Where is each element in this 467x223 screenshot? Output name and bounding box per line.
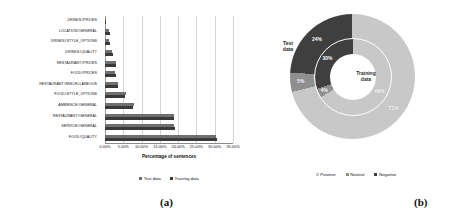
bar-training	[105, 85, 118, 88]
category-label: DRINKS#PRICES	[67, 19, 97, 23]
bar-training	[105, 64, 116, 67]
x-tick-label: 35.00%	[226, 145, 239, 149]
category-label: FOOD#STYLE_OPTIONS	[54, 93, 97, 97]
legend-label-test: Test data	[144, 176, 161, 181]
gridline	[233, 16, 234, 143]
bar-chart-bars	[105, 16, 233, 143]
donut-slice-value-neutral-outer: 5%	[297, 78, 304, 84]
bar-training	[105, 117, 174, 120]
bar-chart-x-axis-title: Percentage of sentences	[105, 154, 233, 159]
bar-chart-category-labels: DRINKS#PRICESLOCATION#GENERALDRINKS#STYL…	[0, 16, 101, 143]
donut-slice-value-neutral-inner: 4%	[321, 87, 328, 93]
donut-inner-ring-label: Training data	[356, 70, 375, 83]
bar-chart-plot-area	[105, 16, 233, 143]
legend-item-test-data: Test data	[139, 176, 161, 181]
donut-outer-ring-label: Test data	[283, 40, 293, 53]
bar-group	[105, 27, 233, 38]
bar-chart-x-axis-ticks: 0.00%5.00%10.00%15.00%20.00%25.00%30.00%…	[105, 145, 233, 153]
category-label: DRINKS#QUALITY	[65, 51, 97, 55]
legend-label-positive: Positive	[320, 172, 335, 177]
donut-slice-value-positive-outer: 71%	[389, 105, 399, 111]
caption-b: (b)	[414, 196, 427, 208]
bar-group	[105, 132, 233, 143]
category-label: RESTAURANT#GENERAL	[53, 115, 97, 119]
x-tick-label: 0.00%	[99, 145, 110, 149]
category-label: FOOD#QUALITY	[69, 136, 97, 140]
legend-item-training-data: Training data	[170, 176, 199, 181]
category-label: SERVICE#GENERAL	[61, 125, 97, 129]
legend-label-training: Training data	[174, 176, 198, 181]
legend-swatch-icon-neutral	[346, 173, 349, 176]
x-tick-label: 15.00%	[153, 145, 166, 149]
bar-training	[105, 53, 113, 56]
legend-label-neutral: Neutral	[350, 172, 364, 177]
legend-item-negative: Negative	[374, 172, 396, 177]
x-tick-label: 30.00%	[208, 145, 221, 149]
bar-group	[105, 16, 233, 27]
x-tick-label: 10.00%	[135, 145, 148, 149]
bar-group	[105, 80, 233, 91]
bar-group	[105, 37, 233, 48]
donut-slice-value-negative-outer: 24%	[312, 36, 322, 42]
bar-group	[105, 111, 233, 122]
bar-training	[105, 106, 133, 109]
donut-chart-plot-area: 71%5%24%66%4%30% Test data Training data	[290, 14, 415, 139]
category-label: RESTAURANT#MISCELLANEOUS	[39, 83, 97, 87]
bar-chart-legend: Test data Training data	[105, 176, 233, 181]
bar-training	[105, 32, 110, 35]
bar-training	[105, 127, 175, 130]
legend-swatch-icon-test	[139, 177, 142, 180]
panel-a-bar-chart: DRINKS#PRICESLOCATION#GENERALDRINKS#STYL…	[0, 0, 245, 223]
panel-b-donut-chart: 71%5%24%66%4%30% Test data Training data…	[245, 0, 467, 223]
bar-training	[105, 74, 116, 77]
donut-slice-value-negative-inner: 30%	[322, 55, 332, 61]
bar-training	[105, 95, 125, 98]
x-tick-label: 5.00%	[118, 145, 129, 149]
category-label: FOOD#PRICES	[71, 72, 97, 76]
legend-swatch-icon-positive	[316, 173, 319, 176]
bar-training	[105, 138, 217, 141]
bar-group	[105, 69, 233, 80]
donut-chart-legend: Positive Neutral Negative	[245, 172, 467, 177]
x-tick-label: 25.00%	[190, 145, 203, 149]
caption-a: (a)	[160, 196, 173, 208]
donut-slice-value-positive-inner: 66%	[375, 88, 385, 94]
bar-group	[105, 90, 233, 101]
category-label: LOCATION#GENERAL	[59, 30, 97, 34]
legend-label-negative: Negative	[379, 172, 396, 177]
legend-swatch-icon-negative	[374, 173, 377, 176]
category-label: AMBIENCE#GENERAL	[58, 104, 97, 108]
legend-item-positive: Positive	[316, 172, 336, 177]
bar-group	[105, 58, 233, 69]
bar-group	[105, 48, 233, 59]
category-label: RESTAURANT#PRICES	[57, 62, 97, 66]
x-tick-label: 20.00%	[172, 145, 185, 149]
bar-group	[105, 122, 233, 133]
bar-training	[105, 21, 106, 24]
bar-training	[105, 42, 110, 45]
legend-item-neutral: Neutral	[346, 172, 365, 177]
legend-swatch-icon-training	[170, 177, 173, 180]
category-label: DRINKS#STYLE_OPTIONS	[51, 40, 97, 44]
figure-container: DRINKS#PRICESLOCATION#GENERALDRINKS#STYL…	[0, 0, 467, 223]
bar-group	[105, 101, 233, 112]
